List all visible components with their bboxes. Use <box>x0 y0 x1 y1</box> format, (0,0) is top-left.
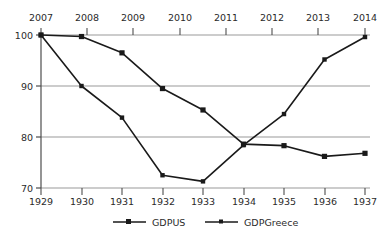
top-tick-label-2013: 2013 <box>306 12 330 23</box>
bottom-axis-labels: 1929 1930 1931 1932 1933 1934 1935 1936 … <box>29 196 377 207</box>
gdp-line-chart: 100 90 80 70 2007 2008 2009 2010 2011 20… <box>0 0 379 237</box>
chart-container: 100 90 80 70 2007 2008 2009 2010 2011 20… <box>0 0 379 237</box>
bottom-tick-label-1932: 1932 <box>151 196 175 207</box>
bottom-tick-label-1929: 1929 <box>29 196 53 207</box>
top-tick-label-2012: 2012 <box>260 12 284 23</box>
legend-label-gdpus: GDPUS <box>152 217 185 228</box>
data-point <box>79 84 83 88</box>
bottom-tick-label-1930: 1930 <box>70 196 94 207</box>
top-tick-label-2014: 2014 <box>353 12 377 23</box>
data-point <box>281 143 286 148</box>
data-point <box>362 151 367 156</box>
bottom-tick-label-1931: 1931 <box>110 196 134 207</box>
bottom-tick-label-1936: 1936 <box>313 196 337 207</box>
legend-label-gdpgreece: GDPGreece <box>244 217 298 228</box>
data-point <box>160 173 164 177</box>
bottom-tick-label-1934: 1934 <box>232 196 256 207</box>
legend-marker-gdpgreece <box>219 220 223 224</box>
data-point <box>322 154 327 159</box>
data-point <box>119 50 124 55</box>
data-point <box>363 35 367 39</box>
bottom-tick-label-1933: 1933 <box>191 196 215 207</box>
data-point <box>201 179 205 183</box>
top-tick-label-2010: 2010 <box>168 12 192 23</box>
data-point <box>282 112 286 116</box>
data-point <box>79 34 84 39</box>
bottom-tick-label-1937: 1937 <box>353 196 377 207</box>
data-point <box>39 33 43 37</box>
y-tick-label-100: 100 <box>15 30 33 41</box>
top-tick-label-2007: 2007 <box>29 12 53 23</box>
y-tick-label-80: 80 <box>21 132 33 143</box>
data-point <box>200 107 205 112</box>
data-point <box>322 57 326 61</box>
y-tick-label-90: 90 <box>21 81 33 92</box>
bottom-tick-label-1935: 1935 <box>272 196 296 207</box>
data-point <box>241 143 245 147</box>
legend-marker-gdpus <box>126 219 131 224</box>
top-tick-label-2008: 2008 <box>75 12 99 23</box>
data-point <box>160 86 165 91</box>
top-tick-label-2011: 2011 <box>214 12 238 23</box>
y-tick-label-70: 70 <box>21 183 33 194</box>
top-tick-label-2009: 2009 <box>121 12 145 23</box>
data-point <box>120 115 124 119</box>
